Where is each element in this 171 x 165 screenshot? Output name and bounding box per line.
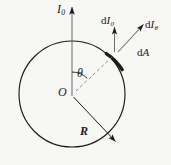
area-element-arc [106, 54, 122, 70]
radius-label: R [80, 125, 88, 137]
differential-intensity-theta-label: dIθ [145, 19, 158, 32]
differential-intensity-normal-label: dI0 [101, 15, 114, 28]
center-point-label: O [58, 86, 67, 98]
area-element-label: dA [137, 47, 149, 58]
physics-diagram-figure: I0 dI0 dIθ dA θ O R [0, 0, 171, 165]
incident-intensity-label: I0 [57, 3, 65, 17]
angle-theta-label: θ [77, 67, 83, 79]
